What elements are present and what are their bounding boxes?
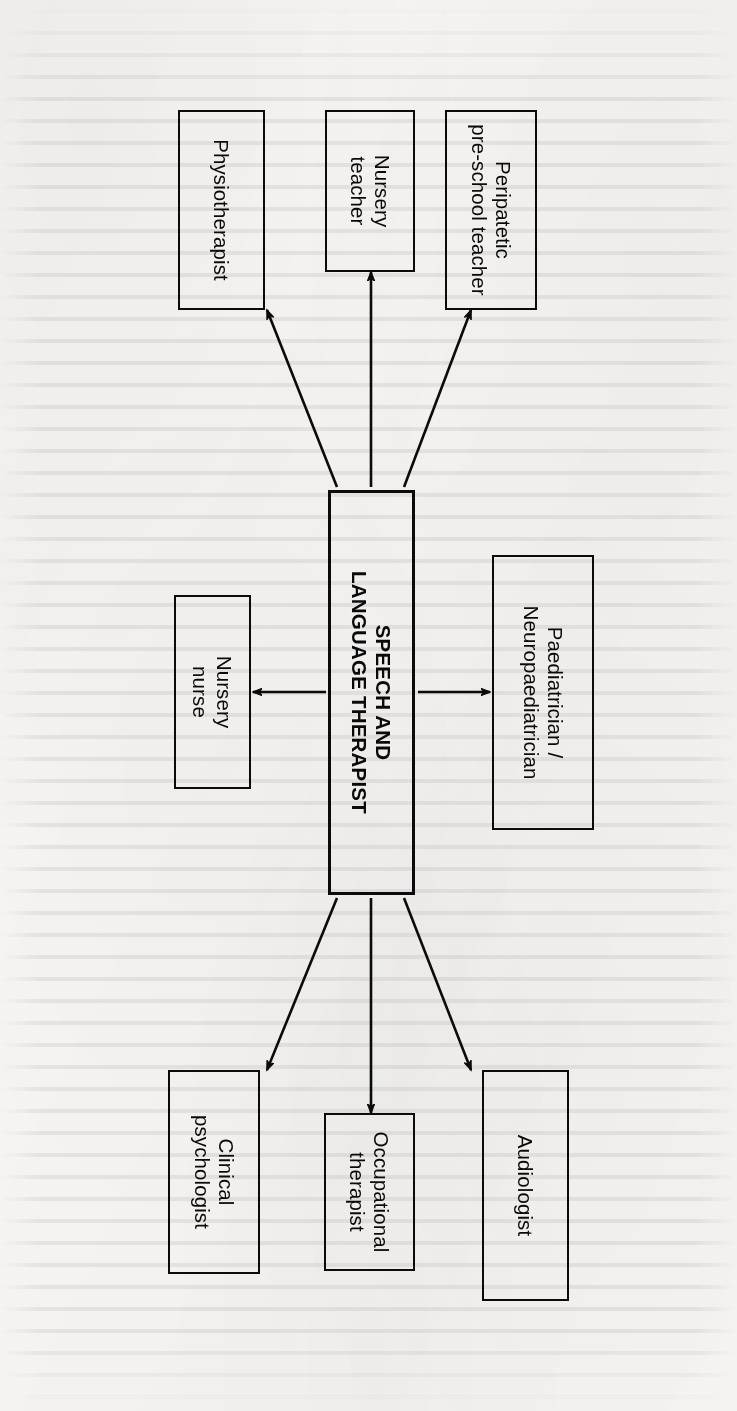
node-nursery-nurse[interactable]: Nursery nurse <box>174 595 251 789</box>
node-clinical-psychologist[interactable]: Clinical psychologist <box>168 1070 260 1274</box>
node-audiologist[interactable]: Audiologist <box>482 1070 569 1301</box>
figure-page: SPEECH AND LANGUAGE THERAPIST Peripateti… <box>0 0 737 1411</box>
node-paediatrician-neuropaediatrician[interactable]: Paediatrician / Neuropaediatrician <box>492 555 594 830</box>
node-label: SPEECH AND LANGUAGE THERAPIST <box>348 565 396 820</box>
edge-to-peripatetic-pre-school-teacher <box>404 310 471 487</box>
node-label: Paediatrician / Neuropaediatrician <box>519 600 567 786</box>
rotated-diagram-canvas: SPEECH AND LANGUAGE THERAPIST Peripateti… <box>0 0 737 1411</box>
node-nursery-teacher[interactable]: Nursery teacher <box>325 110 415 272</box>
node-label: Occupational therapist <box>346 1126 394 1259</box>
node-label: Physiotherapist <box>210 133 234 287</box>
node-physiotherapist[interactable]: Physiotherapist <box>178 110 265 310</box>
edge-to-physiotherapist <box>267 310 337 487</box>
node-label: Nursery teacher <box>346 149 394 233</box>
node-peripatetic-pre-school-teacher[interactable]: Peripatetic pre-school teacher <box>445 110 537 310</box>
node-label: Clinical psychologist <box>190 1109 238 1235</box>
node-label: Audiologist <box>514 1129 538 1242</box>
node-label: Nursery nurse <box>189 650 237 734</box>
node-occupational-therapist[interactable]: Occupational therapist <box>324 1113 415 1271</box>
edge-to-clinical-psychologist <box>267 898 337 1070</box>
node-label: Peripatetic pre-school teacher <box>467 118 515 302</box>
edge-to-audiologist <box>404 898 471 1070</box>
node-speech-and-language-therapist[interactable]: SPEECH AND LANGUAGE THERAPIST <box>328 490 415 895</box>
